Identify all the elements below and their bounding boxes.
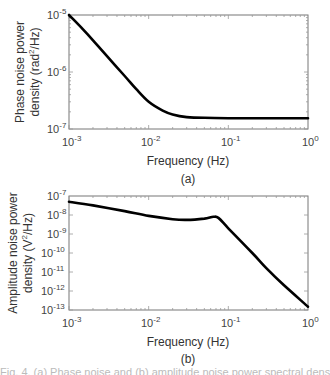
plot-b-minor-ticks xyxy=(69,196,308,310)
svg-text:Amplitude noise power: Amplitude noise power xyxy=(6,192,20,313)
x-axis-label-a: Frequency (Hz) xyxy=(147,154,230,168)
plot-b-y-ticks: 10-7 10-8 10-9 10-10 10-11 10-12 10-13 xyxy=(41,188,67,316)
panel-label-b: (b) xyxy=(181,352,196,366)
ytick-b-2: 10-9 xyxy=(47,226,67,240)
plot-a-frame xyxy=(69,15,308,129)
svg-text:density (rad2/Hz): density (rad2/Hz) xyxy=(27,27,42,116)
ytick-a-1: 10-6 xyxy=(47,64,67,78)
ytick-a-0: 10-5 xyxy=(47,7,67,21)
xtick-a-3: 100 xyxy=(302,134,319,148)
ytick-b-0: 10-7 xyxy=(47,188,67,202)
xtick-b-3: 100 xyxy=(302,315,319,329)
ytick-b-6: 10-13 xyxy=(41,302,65,316)
figure-caption: Fig. 4. (a) Phase noise and (b) amplitud… xyxy=(0,366,330,375)
xtick-a-2: 10-1 xyxy=(221,134,241,148)
ytick-a-2: 10-7 xyxy=(47,121,67,135)
phase-noise-curve xyxy=(69,15,308,118)
plot-a-y-ticks: 10-5 10-6 10-7 xyxy=(47,7,67,135)
xtick-a-0: 10-3 xyxy=(62,134,82,148)
xtick-b-2: 10-1 xyxy=(221,315,241,329)
xtick-b-1: 10-2 xyxy=(141,315,161,329)
x-axis-label-b: Frequency (Hz) xyxy=(147,335,230,349)
panel-a: 10-5 10-6 10-7 10-3 10-2 10-1 100 Freque… xyxy=(13,7,319,186)
ytick-b-4: 10-11 xyxy=(41,264,65,278)
y-axis-label-b: Amplitude noise power density (V2/Hz) xyxy=(6,192,35,313)
y-axis-label-a: Phase noise power density (rad2/Hz) xyxy=(13,21,42,123)
ytick-b-3: 10-10 xyxy=(41,245,65,259)
plot-b-frame xyxy=(69,196,308,310)
xtick-a-1: 10-2 xyxy=(141,134,161,148)
panel-label-a: (a) xyxy=(181,172,196,186)
panel-b: 10-7 10-8 10-9 10-10 10-11 10-12 10-13 1… xyxy=(6,188,319,366)
ytick-b-1: 10-8 xyxy=(47,207,67,221)
ytick-b-5: 10-12 xyxy=(41,283,65,297)
figure: 10-5 10-6 10-7 10-3 10-2 10-1 100 Freque… xyxy=(0,0,330,375)
xtick-b-0: 10-3 xyxy=(62,315,82,329)
plot-a-minor-ticks xyxy=(69,15,308,129)
amplitude-noise-curve xyxy=(69,202,308,307)
svg-text:density (V2/Hz): density (V2/Hz) xyxy=(20,213,35,293)
plot-a-x-ticks: 10-3 10-2 10-1 100 xyxy=(62,134,319,148)
svg-text:Phase noise power: Phase noise power xyxy=(13,21,27,123)
plot-b-x-ticks: 10-3 10-2 10-1 100 xyxy=(62,315,319,329)
